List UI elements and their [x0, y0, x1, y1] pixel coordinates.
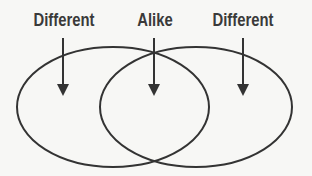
arrow-right-different: [237, 38, 249, 96]
arrowhead-icon: [57, 84, 69, 96]
venn-diagram: Different Alike Different: [0, 0, 312, 176]
arrow-alike: [148, 38, 160, 96]
right-set-ellipse: [100, 47, 292, 167]
venn-graphic: [0, 0, 312, 176]
arrowhead-icon: [237, 84, 249, 96]
left-set-ellipse: [17, 47, 209, 167]
arrowhead-icon: [148, 84, 160, 96]
arrow-left-different: [57, 38, 69, 96]
